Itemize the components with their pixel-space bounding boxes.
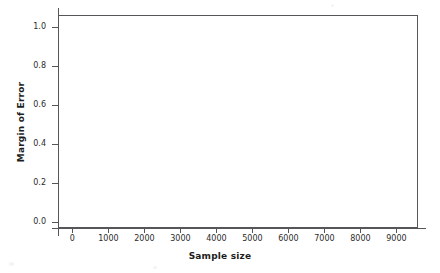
y-axis-tick-label: 0.8 xyxy=(33,62,46,70)
scan-speckle xyxy=(9,262,14,266)
x-axis-tick-mark xyxy=(180,228,181,233)
x-axis-tick-mark xyxy=(324,228,325,233)
y-axis-tick-mark xyxy=(52,66,58,67)
x-axis-tick-mark xyxy=(396,228,397,233)
x-axis-tick-label: 4000 xyxy=(206,235,226,243)
scan-speckle xyxy=(153,266,157,269)
y-axis-tick-mark xyxy=(52,144,58,145)
y-axis-tick-label: 0.4 xyxy=(33,140,46,148)
x-axis-tick-label: 2000 xyxy=(134,235,154,243)
x-axis-tick-label: 1000 xyxy=(98,235,118,243)
x-axis-tick-label: 0 xyxy=(70,235,75,243)
x-axis-tick-mark xyxy=(360,228,361,233)
x-axis-tick-mark xyxy=(216,228,217,233)
x-axis-tick-label: 7000 xyxy=(314,235,334,243)
x-axis-title-label: Sample size xyxy=(189,251,252,261)
x-axis-tick-mark xyxy=(144,228,145,233)
y-axis-tick-mark xyxy=(52,105,58,106)
x-axis-tick-label: 6000 xyxy=(278,235,298,243)
y-axis-title: Margin of Error xyxy=(14,0,28,243)
y-axis-line xyxy=(58,8,59,236)
y-axis-tick-mark xyxy=(52,27,58,28)
y-axis-tick-label: 0.6 xyxy=(33,101,46,109)
y-axis-tick-mark xyxy=(52,183,58,184)
x-axis-title: Sample size xyxy=(0,251,440,261)
plot-data-area xyxy=(59,16,417,227)
y-axis-tick-label: 0.2 xyxy=(33,179,46,187)
scan-speckle xyxy=(331,4,334,7)
chart-screenshot: 0.00.20.40.60.81.0 010002000300040005000… xyxy=(0,0,440,273)
x-axis-tick-mark xyxy=(108,228,109,233)
x-axis-tick-mark xyxy=(288,228,289,233)
x-axis-tick-label: 9000 xyxy=(386,235,406,243)
x-axis-tick-label: 3000 xyxy=(170,235,190,243)
y-axis-title-label: Margin of Error xyxy=(16,81,26,161)
x-axis-tick-mark xyxy=(252,228,253,233)
y-axis-tick-label: 0.0 xyxy=(33,218,46,226)
plot-frame xyxy=(58,15,418,228)
x-axis-tick-label: 5000 xyxy=(242,235,262,243)
y-axis-tick-mark xyxy=(52,222,58,223)
y-axis-tick-label: 1.0 xyxy=(33,23,46,31)
x-axis-tick-label: 8000 xyxy=(350,235,370,243)
x-axis-tick-mark xyxy=(72,228,73,233)
